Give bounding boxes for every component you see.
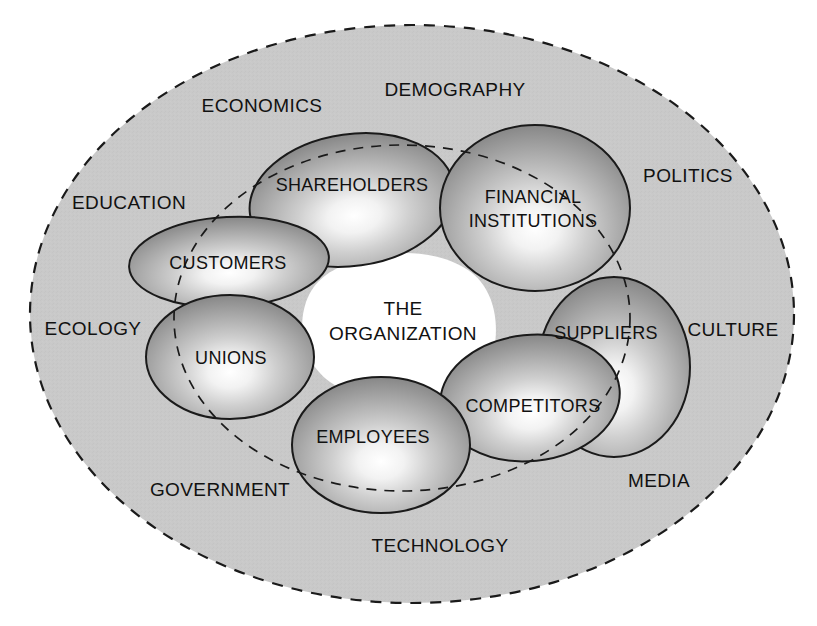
label-technology: TECHNOLOGY [371,535,508,556]
label-economics: ECONOMICS [202,95,323,116]
label-unions: UNIONS [195,348,267,368]
core-label-line2: ORGANIZATION [329,323,477,344]
diagram-canvas: THE ORGANIZATION SHAREHOLDERS FINANCIAL … [0,0,817,626]
core-label-line1: THE [383,298,422,319]
label-culture: CULTURE [687,319,778,340]
label-demography: DEMOGRAPHY [384,79,525,100]
label-government: GOVERNMENT [150,479,290,500]
label-education: EDUCATION [72,192,186,213]
label-ecology: ECOLOGY [45,318,142,339]
label-politics: POLITICS [643,165,733,186]
organization-environment-diagram: THE ORGANIZATION SHAREHOLDERS FINANCIAL … [0,0,817,626]
label-media: MEDIA [628,470,690,491]
label-customers: CUSTOMERS [169,253,286,273]
label-suppliers: SUPPLIERS [554,323,658,343]
label-competitors: COMPETITORS [466,396,601,416]
label-employees: EMPLOYEES [316,427,430,447]
label-financial-institutions-line2: INSTITUTIONS [469,211,598,231]
label-financial-institutions-line1: FINANCIAL [485,187,582,207]
label-shareholders: SHAREHOLDERS [276,175,429,195]
